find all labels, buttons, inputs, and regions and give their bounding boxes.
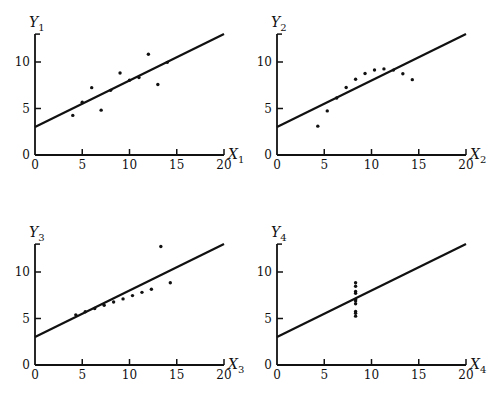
- y-tick-label: 5: [264, 102, 272, 116]
- data-point: [363, 72, 366, 75]
- data-point: [159, 245, 162, 248]
- x-tick-label: 15: [169, 158, 184, 172]
- y-tick-label: 10: [257, 55, 272, 69]
- anscombe-quartet-chart: 051015200510X1Y1051015200510X2Y205101520…: [0, 0, 492, 401]
- data-point: [109, 89, 112, 92]
- data-point: [137, 76, 140, 79]
- data-point: [112, 300, 115, 303]
- scatter-panel-2: 051015200510X2Y2: [257, 14, 487, 172]
- data-point: [74, 313, 77, 316]
- data-point: [354, 290, 357, 293]
- data-point: [392, 68, 395, 71]
- data-point: [354, 312, 357, 315]
- x-tick-label: 0: [273, 368, 281, 382]
- x-tick-label: 5: [78, 158, 86, 172]
- scatter-panel-4: 051015200510X4Y4: [257, 224, 487, 382]
- y-tick-label: 0: [22, 148, 30, 162]
- data-point: [128, 79, 131, 82]
- y-tick-label: 5: [264, 312, 272, 326]
- data-point: [354, 285, 357, 288]
- data-point: [118, 71, 121, 74]
- x-tick-label: 10: [364, 158, 379, 172]
- data-point: [102, 304, 105, 307]
- x-tick-label: 0: [273, 158, 281, 172]
- x-tick-label: 10: [364, 368, 379, 382]
- x-tick-label: 0: [31, 158, 39, 172]
- y-axis-title: Y3: [29, 224, 45, 243]
- data-point: [156, 83, 159, 86]
- x-tick-label: 15: [411, 368, 426, 382]
- x-tick-label: 15: [169, 368, 184, 382]
- x-tick-label: 5: [320, 368, 328, 382]
- data-point: [90, 86, 93, 89]
- x-tick-label: 10: [122, 368, 137, 382]
- data-point: [71, 114, 74, 117]
- y-axis-title: Y2: [271, 14, 287, 33]
- data-point: [147, 52, 150, 55]
- data-point: [354, 281, 357, 284]
- y-tick-label: 0: [264, 358, 272, 372]
- data-point: [140, 291, 143, 294]
- y-tick-label: 0: [22, 358, 30, 372]
- y-tick-label: 5: [22, 102, 30, 116]
- data-point: [354, 78, 357, 81]
- x-tick-label: 10: [122, 158, 137, 172]
- data-point: [373, 68, 376, 71]
- data-point: [335, 96, 338, 99]
- data-point: [121, 297, 124, 300]
- data-point: [84, 310, 87, 313]
- data-point: [93, 307, 96, 310]
- data-point: [354, 299, 357, 302]
- data-point: [344, 86, 347, 89]
- data-point: [150, 288, 153, 291]
- y-tick-label: 10: [257, 265, 272, 279]
- data-point: [316, 124, 319, 127]
- x-tick-label: 0: [31, 368, 39, 382]
- scatter-panel-3: 051015200510X3Y3: [15, 224, 245, 382]
- data-point: [99, 108, 102, 111]
- data-point: [131, 294, 134, 297]
- x-tick-label: 5: [320, 158, 328, 172]
- regression-line: [277, 244, 466, 337]
- data-point: [169, 281, 172, 284]
- y-axis-title: Y1: [29, 14, 45, 33]
- data-point: [382, 67, 385, 70]
- data-point: [326, 109, 329, 112]
- data-point: [411, 78, 414, 81]
- x-tick-label: 15: [411, 158, 426, 172]
- regression-line: [35, 244, 224, 337]
- regression-line: [277, 34, 466, 127]
- y-tick-label: 10: [15, 265, 30, 279]
- y-axis-title: Y4: [271, 224, 287, 243]
- data-point: [401, 72, 404, 75]
- y-tick-label: 10: [15, 55, 30, 69]
- scatter-panel-1: 051015200510X1Y1: [15, 14, 245, 172]
- x-tick-label: 5: [78, 368, 86, 382]
- y-tick-label: 5: [22, 312, 30, 326]
- y-tick-label: 0: [264, 148, 272, 162]
- data-point: [166, 61, 169, 64]
- data-point: [81, 100, 84, 103]
